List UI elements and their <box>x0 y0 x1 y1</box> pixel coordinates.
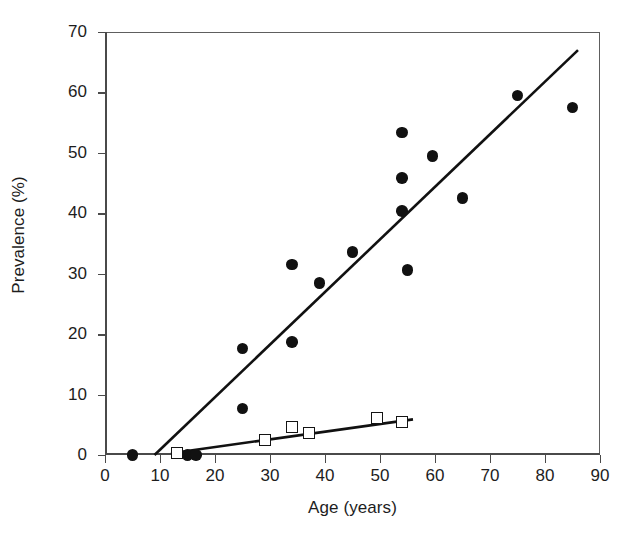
x-tick <box>490 455 491 463</box>
data-point-filled-circle <box>127 449 139 461</box>
y-tick: 20 <box>98 334 105 335</box>
figure-caption <box>8 536 622 548</box>
y-tick: 10 <box>98 395 105 396</box>
y-tick: 70 <box>98 32 105 33</box>
y-tick-label: 0 <box>78 445 87 465</box>
x-tick-label: 0 <box>100 466 109 486</box>
data-point-open-square <box>371 412 383 424</box>
regression-lines <box>105 32 600 455</box>
y-tick-label: 70 <box>68 22 87 42</box>
y-tick-label: 40 <box>68 203 87 223</box>
data-point-open-square <box>303 427 315 439</box>
x-tick-label: 80 <box>536 466 555 486</box>
data-point-filled-circle <box>347 246 359 258</box>
x-tick-label: 10 <box>151 466 170 486</box>
x-tick-label: 40 <box>316 466 335 486</box>
data-point-open-square <box>171 447 183 459</box>
x-tick-label: 60 <box>426 466 445 486</box>
x-tick <box>380 455 381 463</box>
y-tick-label: 10 <box>68 385 87 405</box>
data-point-filled-circle <box>286 336 298 348</box>
steep-regression-line <box>155 50 579 455</box>
y-tick: 0 <box>98 455 105 456</box>
x-tick <box>270 455 271 463</box>
x-axis-label: Age (years) <box>105 498 600 518</box>
x-tick <box>160 455 161 463</box>
x-tick <box>105 455 106 463</box>
x-tick <box>435 455 436 463</box>
x-tick <box>325 455 326 463</box>
x-tick <box>545 455 546 463</box>
data-point-filled-circle <box>396 127 408 139</box>
scatter-plot-figure: Prevalence (%) Age (years) 0102030405060… <box>0 0 630 555</box>
data-point-open-square <box>259 434 271 446</box>
x-tick-label: 20 <box>206 466 225 486</box>
y-tick-label: 50 <box>68 143 87 163</box>
y-axis-label: Prevalence (%) <box>2 0 36 470</box>
y-tick: 40 <box>98 213 105 214</box>
y-tick: 30 <box>98 274 105 275</box>
x-tick-label: 90 <box>591 466 610 486</box>
x-tick-label: 50 <box>371 466 390 486</box>
y-tick-label: 30 <box>68 264 87 284</box>
data-point-filled-circle <box>402 264 414 276</box>
data-point-filled-circle <box>286 259 298 271</box>
data-point-filled-circle <box>190 449 202 461</box>
data-point-open-square <box>286 421 298 433</box>
x-tick <box>215 455 216 463</box>
y-tick: 60 <box>98 92 105 93</box>
x-tick-label: 70 <box>481 466 500 486</box>
data-point-filled-circle <box>427 150 439 162</box>
data-point-open-square <box>396 416 408 428</box>
x-tick-label: 30 <box>261 466 280 486</box>
x-tick <box>600 455 601 463</box>
data-point-filled-circle <box>396 205 408 217</box>
data-point-filled-circle <box>314 277 326 289</box>
plot-area: 010203040506070 0102030405060708090 <box>105 32 600 455</box>
y-tick: 50 <box>98 153 105 154</box>
data-point-filled-circle <box>457 192 469 204</box>
y-tick-label: 60 <box>68 82 87 102</box>
data-point-filled-circle <box>396 172 408 184</box>
y-tick-label: 20 <box>68 324 87 344</box>
